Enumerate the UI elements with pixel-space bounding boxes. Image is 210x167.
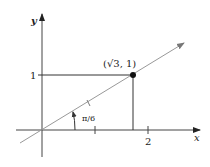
diagonal-line [20,43,184,143]
angle-label: π/6 [82,114,95,123]
angle-arc-icon [73,112,75,130]
x-axis-label: x [194,132,200,143]
diagram: y x 1 2 (√3, 1) π/6 [0,0,210,167]
point-marker [130,72,136,78]
y-axis-label: y [30,15,38,26]
point-label: (√3, 1) [103,58,136,69]
y-tick-label: 1 [30,70,36,81]
x-tick-label: 2 [145,136,151,147]
